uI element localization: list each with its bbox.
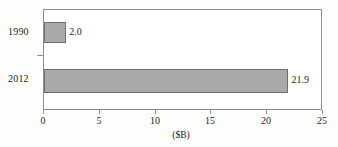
x-axis-title: ($B) [0, 130, 338, 140]
x-axis-tick [43, 110, 44, 114]
x-axis-tick-label: 20 [261, 115, 271, 126]
x-axis-tick-label: 10 [150, 115, 160, 126]
x-axis-tick-label: 5 [97, 115, 102, 126]
x-axis-tick-label: 25 [317, 115, 327, 126]
value-label-1990: 2.0 [69, 26, 82, 37]
bar-chart-figure: 1990 2012 2.0 21.9 0510152025 ($B) [0, 0, 338, 147]
x-axis-tick-label: 0 [41, 115, 46, 126]
x-axis-tick-label: 15 [205, 115, 215, 126]
x-axis-tick [155, 110, 156, 114]
value-label-2012: 21.9 [291, 74, 309, 85]
y-axis-tick-mid [37, 55, 43, 56]
x-axis-tick [99, 110, 100, 114]
plot-area [43, 9, 322, 110]
bar-1990 [44, 22, 66, 43]
x-axis-tick [322, 110, 323, 114]
bar-2012 [44, 69, 288, 93]
x-axis-tick [210, 110, 211, 114]
x-axis-tick [266, 110, 267, 114]
